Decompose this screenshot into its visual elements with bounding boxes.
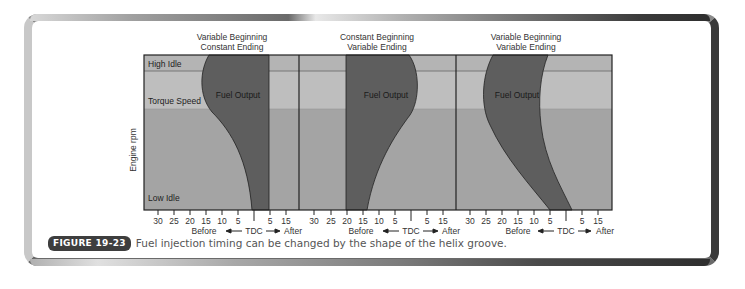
caption-text: Fuel injection timing can be changed by …: [136, 237, 507, 249]
tick-label: 10: [529, 216, 539, 226]
tick-label: 25: [481, 216, 491, 226]
panel-3-title-line1: Variable Beginning: [491, 32, 562, 42]
panel-3-title-line2: Variable Ending: [496, 42, 556, 52]
tick-label: 20: [342, 216, 352, 226]
band-label-low-idle: Low Idle: [148, 193, 180, 203]
tick-label: 25: [326, 216, 336, 226]
tick-label: 5: [393, 216, 398, 226]
tick-label: 20: [497, 216, 507, 226]
tick-label: 5: [425, 216, 430, 226]
figure-caption: FIGURE 19-23 Fuel injection timing can b…: [48, 235, 507, 251]
panel-1-title-line2: Constant Ending: [201, 42, 264, 52]
tick-label: 15: [438, 216, 448, 226]
band-label-high-idle: High Idle: [148, 59, 182, 69]
tick-label: 15: [593, 216, 603, 226]
tick-label: 15: [281, 216, 291, 226]
tick-label: 30: [309, 216, 319, 226]
tick-label: 20: [185, 216, 195, 226]
tick-label: 15: [358, 216, 368, 226]
fuel-output-label-2: Fuel Output: [364, 90, 409, 100]
tick-label: 15: [201, 216, 211, 226]
fuel-output-label-3: Fuel Output: [495, 90, 540, 100]
panel-1-title-line1: Variable Beginning: [197, 32, 268, 42]
tick-label: 10: [217, 216, 227, 226]
tick-label: 5: [548, 216, 553, 226]
band-label-torque-speed: Torque Speed: [148, 96, 201, 106]
fuel-output-label-1: Fuel Output: [216, 90, 261, 100]
tdc-label-3: TDC: [557, 226, 574, 236]
panel-2-title-line1: Constant Beginning: [340, 32, 414, 42]
tick-label: 5: [580, 216, 585, 226]
tick-label: 30: [153, 216, 163, 226]
figure-number-badge: FIGURE 19-23: [48, 236, 131, 251]
after-label-3: After: [596, 226, 614, 236]
tick-label: 5: [236, 216, 241, 226]
tick-label: 25: [169, 216, 179, 226]
tick-label: 15: [513, 216, 523, 226]
y-axis-label: Engine rpm: [128, 128, 138, 171]
tick-label: 30: [465, 216, 475, 226]
tick-label: 5: [268, 216, 273, 226]
before-label-3: Before: [505, 226, 530, 236]
panel-2-title-line2: Variable Ending: [347, 42, 407, 52]
tick-label: 10: [374, 216, 384, 226]
